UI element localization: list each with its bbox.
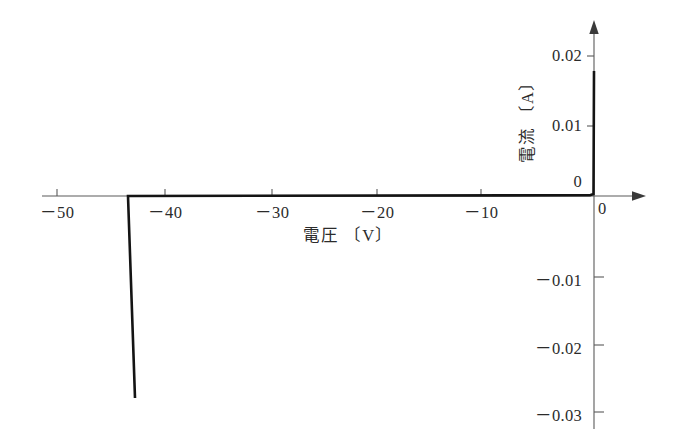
x-axis-arrow-icon	[632, 191, 646, 200]
y-axis	[587, 20, 604, 429]
x-tick-label--50: －50	[27, 199, 87, 223]
y-tick-label--0.03: －0.03	[506, 402, 582, 426]
y-tick-label--0.02: －0.02	[506, 335, 582, 359]
x-tick-label--20: －20	[347, 199, 407, 223]
x-axis-title: 電圧 〔V〕	[303, 222, 393, 246]
y-axis-arrow-icon	[589, 20, 598, 34]
x-tick-label--30: －30	[242, 199, 302, 223]
y-tick-label--0.01: －0.01	[506, 267, 582, 291]
iv-characteristic-chart: －50 －40 －30 －20 －10 0 0.02 0.01 0 －0.01 …	[0, 0, 673, 429]
x-tick-label--40: －40	[135, 199, 195, 223]
x-tick-label--10: －10	[451, 199, 511, 223]
x-tick-label-0: 0	[598, 199, 622, 219]
y-axis-title: 電流 〔A〕	[514, 53, 538, 183]
